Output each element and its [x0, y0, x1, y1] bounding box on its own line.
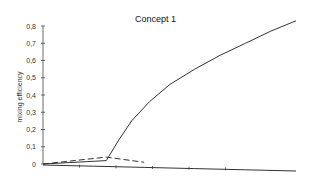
y-tick-label: 0,1: [26, 143, 36, 150]
y-tick-label: 0,2: [26, 126, 36, 133]
y-tick-label: 0,8: [26, 23, 36, 30]
y-tick-label: 0: [32, 161, 36, 168]
y-tick-label: 0,5: [26, 74, 36, 81]
y-axis-label: mixing efficiency: [16, 71, 24, 123]
plot-area: [43, 21, 296, 171]
chart-title: Concept 1: [135, 14, 176, 24]
series-line-solid-declining: [43, 165, 296, 171]
y-tick-label: 0,6: [26, 57, 36, 64]
y-tick-label: 0,3: [26, 109, 36, 116]
line-chart: Concept 1 mixing efficiency 00,10,20,30,…: [0, 0, 309, 182]
series-line-solid-rising: [43, 21, 296, 164]
y-tick-label: 0,7: [26, 40, 36, 47]
y-axis: 00,10,20,30,40,50,60,70,8: [26, 23, 45, 168]
y-tick-label: 0,4: [26, 92, 36, 99]
